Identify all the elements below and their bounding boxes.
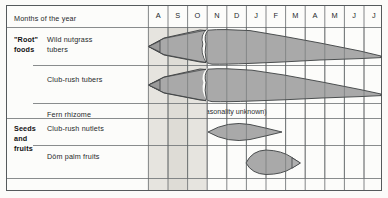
row-label-fern-rhizome: Fern rhizome	[47, 110, 91, 119]
seasonality-unknown-note: (seasonality unknown)	[196, 108, 267, 116]
month-label: A	[305, 11, 325, 20]
month-label: N	[207, 11, 227, 20]
group-label-root-line1: "Root"	[14, 35, 38, 44]
flood-waters-annotation: FLOOD WATERS COVER UPPER PLAIN	[164, 32, 176, 184]
chart-frame	[6, 5, 382, 191]
group-label-root-line2: foods	[14, 45, 34, 54]
row-label-wild-nutgrass: Wild nutgrass	[47, 35, 93, 44]
group-label-seeds-line3: fruits	[14, 144, 33, 153]
row-label-club-rush-nutlets: Club-rush nutlets	[47, 124, 104, 133]
month-label: O	[188, 11, 208, 20]
group-label-seeds-line2: and	[14, 134, 27, 143]
group-label-seeds-line1: Seeds	[14, 124, 36, 133]
row-label-dom-palm-fruits: Dôm palm fruits	[47, 152, 100, 161]
month-label: J	[246, 11, 266, 20]
month-label: J	[344, 11, 364, 20]
month-label: J	[364, 11, 384, 20]
month-label: D	[227, 11, 247, 20]
month-label: A	[148, 11, 168, 20]
chart-header-label: Months of the year	[14, 14, 76, 23]
month-label: S	[168, 11, 188, 20]
month-label: F	[266, 11, 286, 20]
seasonality-chart: A S O N D J F M A M J J Months of the ye…	[0, 0, 388, 198]
row-label-club-rush-tubers: Club-rush tubers	[47, 75, 103, 84]
month-label: M	[325, 11, 345, 20]
row-label-wild-nutgrass-line2: tubers	[47, 45, 68, 54]
month-label: M	[286, 11, 306, 20]
